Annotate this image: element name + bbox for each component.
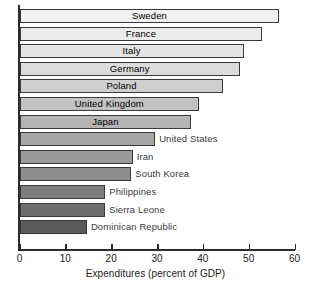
bar-row: Sierra Leone <box>20 202 295 220</box>
bar-row: Poland <box>20 78 295 96</box>
bar-category-label: Italy <box>20 44 244 58</box>
tick-label: 50 <box>243 253 254 264</box>
bar-row: Dominican Republic <box>20 219 295 237</box>
bar-category-label: Iran <box>133 150 154 164</box>
bar <box>20 132 156 146</box>
bar <box>20 220 87 234</box>
bar-category-label: Dominican Republic <box>87 220 177 234</box>
bar-row: Japan <box>20 114 295 132</box>
x-axis-ticks: 0102030405060 <box>0 0 311 40</box>
bar <box>20 150 133 164</box>
bar-series: SwedenFranceItalyGermanyPolandUnited Kin… <box>20 8 295 240</box>
bar <box>20 185 106 199</box>
bar-row: Philippines <box>20 184 295 202</box>
bar-category-label: Japan <box>20 115 192 129</box>
tick-mark <box>249 244 251 250</box>
tick-mark <box>157 244 159 250</box>
tick-mark <box>111 244 113 250</box>
bar-row: South Korea <box>20 166 295 184</box>
bar-category-label: Poland <box>20 79 224 93</box>
tick-label: 20 <box>106 253 117 264</box>
bar-row: United Kingdom <box>20 96 295 114</box>
tick-label: 60 <box>289 253 300 264</box>
bar-row: Iran <box>20 149 295 167</box>
tick-label: 40 <box>197 253 208 264</box>
x-axis-title: Expenditures (percent of GDP) <box>0 268 311 279</box>
tick-mark <box>203 244 205 250</box>
bar-category-label: Sierra Leone <box>105 203 165 217</box>
bar-chart: SwedenFranceItalyGermanyPolandUnited Kin… <box>0 0 311 291</box>
bar <box>20 167 132 181</box>
bar-row: Germany <box>20 61 295 79</box>
tick-mark <box>295 244 297 250</box>
bar-category-label: United Kingdom <box>20 97 200 111</box>
plot-area: SwedenFranceItalyGermanyPolandUnited Kin… <box>0 0 311 252</box>
tick-label: 30 <box>151 253 162 264</box>
tick-label: 0 <box>17 253 23 264</box>
tick-mark <box>20 244 22 250</box>
bar <box>20 203 106 217</box>
bar-row: Italy <box>20 43 295 61</box>
bar-category-label: United States <box>155 132 217 146</box>
bar-category-label: Germany <box>20 62 240 76</box>
bar-category-label: Philippines <box>105 185 156 199</box>
tick-mark <box>65 244 67 250</box>
bar-category-label: South Korea <box>131 167 189 181</box>
tick-label: 10 <box>60 253 71 264</box>
bar-row: United States <box>20 131 295 149</box>
